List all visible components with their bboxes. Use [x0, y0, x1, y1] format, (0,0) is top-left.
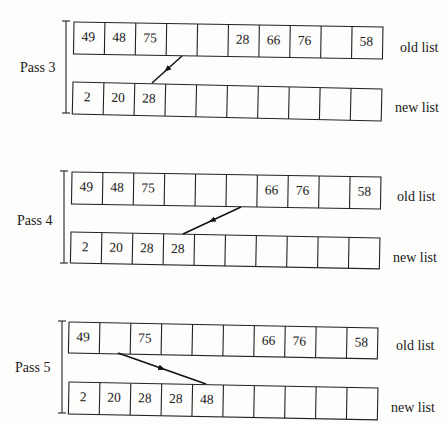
cell-divider	[316, 327, 317, 358]
new-list-label: new list	[391, 400, 435, 415]
list-cell-value: 2	[84, 89, 91, 104]
cell-divider	[197, 24, 198, 56]
old-list-label: old list	[397, 189, 436, 204]
cell-divider	[319, 88, 320, 120]
move-arrow-icon	[152, 56, 182, 83]
list-cell-value: 75	[143, 30, 157, 45]
move-arrow-icon	[183, 207, 241, 234]
cell-divider	[350, 88, 351, 120]
cell-divider	[285, 386, 286, 418]
cell-divider	[257, 175, 258, 207]
list-cell-value: 58	[357, 184, 371, 199]
cell-divider	[192, 384, 193, 416]
cell-divider	[103, 83, 104, 115]
list-cell-value: 49	[76, 329, 90, 344]
pass-bracket	[62, 21, 70, 113]
list-cell-value: 28	[138, 390, 152, 405]
list-cell-value: 76	[298, 33, 312, 48]
new-list-label: new list	[393, 250, 437, 265]
pass-4-group: Pass 44948756676582202828old listnew lis…	[17, 171, 437, 269]
cell-divider	[316, 387, 317, 419]
list-cell-value: 28	[171, 241, 185, 256]
cell-divider	[289, 87, 290, 119]
cell-divider	[130, 323, 131, 354]
list-cell-value: 66	[265, 182, 279, 197]
cell-divider	[165, 84, 166, 116]
pass-5-group: Pass 54975667658220282848old listnew lis…	[15, 321, 435, 420]
list-cell-value: 20	[107, 390, 121, 405]
cell-divider	[290, 26, 291, 58]
cell-divider	[192, 324, 193, 355]
cell-divider	[254, 386, 255, 418]
cell-divider	[346, 327, 347, 358]
cell-divider	[228, 25, 229, 57]
list-cell-value: 58	[354, 334, 368, 349]
passes-container: Pass 34948752866765822028old listnew lis…	[15, 21, 439, 420]
pass-bracket	[58, 321, 66, 413]
pass-label: Pass 4	[17, 213, 52, 228]
cell-divider	[227, 86, 228, 118]
pass-bracket	[60, 171, 68, 263]
list-cell-value: 48	[200, 392, 214, 407]
cell-divider	[226, 175, 227, 207]
cell-divider	[352, 27, 353, 59]
cell-divider	[130, 383, 131, 415]
list-cell-value: 48	[110, 180, 124, 195]
list-cell-value: 2	[80, 389, 87, 404]
cell-divider	[348, 237, 349, 268]
old-list: 4975667658	[68, 322, 378, 359]
pass-label: Pass 3	[20, 60, 55, 75]
list-cell-value: 75	[138, 330, 152, 345]
new-list-label: new list	[395, 100, 439, 115]
cell-divider	[321, 26, 322, 58]
move-arrow-icon	[118, 353, 206, 384]
list-cell-value: 28	[169, 391, 183, 406]
cell-divider	[99, 383, 100, 415]
list-cell-value: 20	[111, 90, 125, 105]
list-cell-value: 28	[142, 91, 156, 106]
cell-divider	[135, 23, 136, 55]
list-cell-value: 20	[109, 240, 123, 255]
pass-label: Pass 5	[15, 360, 50, 375]
cell-divider	[99, 323, 100, 354]
cell-divider	[133, 173, 134, 205]
cell-divider	[161, 384, 162, 416]
cell-divider	[196, 85, 197, 117]
cell-divider	[101, 233, 102, 264]
cell-divider	[256, 236, 257, 267]
cell-divider	[166, 24, 167, 56]
cell-divider	[134, 83, 135, 115]
old-list: 49487528667658	[73, 22, 382, 59]
cell-divider	[350, 177, 351, 209]
list-cell-value: 2	[82, 239, 89, 254]
cell-divider	[104, 23, 105, 55]
cell-divider	[161, 324, 162, 355]
cell-divider	[195, 174, 196, 206]
list-cell-value: 66	[262, 333, 276, 348]
cell-divider	[225, 235, 226, 266]
cell-divider	[163, 234, 164, 265]
cell-divider	[287, 236, 288, 267]
list-cell-value: 75	[141, 180, 155, 195]
list-cell-value: 76	[293, 333, 307, 348]
list-cell-value: 28	[140, 240, 154, 255]
new-list: 22028	[72, 82, 382, 121]
cell-divider	[194, 234, 195, 265]
new-list: 220282848	[68, 382, 378, 420]
list-cell-value: 66	[267, 32, 281, 47]
old-list: 494875667658	[71, 172, 380, 209]
cell-divider	[223, 385, 224, 417]
cell-divider	[254, 326, 255, 357]
old-list-label: old list	[400, 40, 439, 55]
cell-divider	[223, 325, 224, 356]
cell-divider	[319, 176, 320, 208]
cell-divider	[258, 86, 259, 118]
list-cell-value: 58	[359, 34, 373, 49]
cell-divider	[318, 237, 319, 268]
selection-sort-passes-diagram: Pass 34948752866765822028old listnew lis…	[0, 0, 448, 424]
cell-divider	[102, 173, 103, 205]
cell-divider	[285, 326, 286, 357]
cell-divider	[288, 176, 289, 208]
new-list: 2202828	[70, 232, 380, 269]
list-cell-value: 49	[81, 29, 95, 44]
